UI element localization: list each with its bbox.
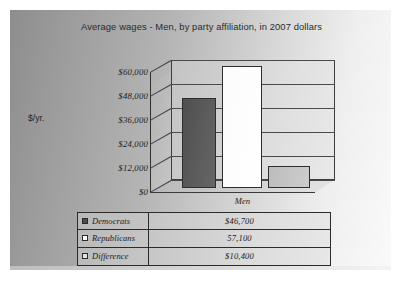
bar-democrats xyxy=(182,98,216,188)
series-name-democrats: Democrats xyxy=(92,216,130,226)
y-tick-label-36000: $36,000 xyxy=(84,115,148,125)
y-tick-label-12000: $12,000 xyxy=(84,163,148,173)
legend-cell-difference: Difference xyxy=(78,248,149,265)
table-row[interactable]: Democrats $46,700 xyxy=(78,213,330,230)
y-tick-label-24000: $24,000 xyxy=(84,139,148,149)
legend-data-table: Democrats $46,700 Republicans 57,100 Dif… xyxy=(77,212,331,266)
series-value-democrats: $46,700 xyxy=(149,213,330,229)
series-name-republicans: Republicans xyxy=(92,233,135,243)
bar-republicans xyxy=(222,66,262,188)
series-value-difference: $10,400 xyxy=(149,248,330,265)
legend-cell-democrats: Democrats xyxy=(78,213,149,229)
series-name-difference: Difference xyxy=(92,251,129,261)
depth-tick-60000 xyxy=(150,60,171,73)
gridline-60000 xyxy=(171,60,335,61)
y-axis-line xyxy=(150,72,151,193)
legend-swatch-difference-icon xyxy=(82,253,88,259)
bar-difference xyxy=(268,166,310,188)
table-row[interactable]: Difference $10,400 xyxy=(78,248,330,265)
table-row[interactable]: Republicans 57,100 xyxy=(78,230,330,247)
legend-cell-republicans: Republicans xyxy=(78,230,149,246)
x-axis-line xyxy=(150,192,315,193)
y-tick-label-48000: $48,000 xyxy=(84,91,148,101)
series-value-republicans: 57,100 xyxy=(149,230,330,246)
category-label-men: Men xyxy=(150,196,335,206)
legend-swatch-republicans-icon xyxy=(82,235,88,241)
y-tick-label-60000: $60,000 xyxy=(84,67,148,77)
chart-screenshot: Average wages - Men, by party affiliatio… xyxy=(0,0,403,285)
y-tick-label-0: $0 xyxy=(84,187,148,197)
legend-swatch-democrats-icon xyxy=(82,218,88,224)
